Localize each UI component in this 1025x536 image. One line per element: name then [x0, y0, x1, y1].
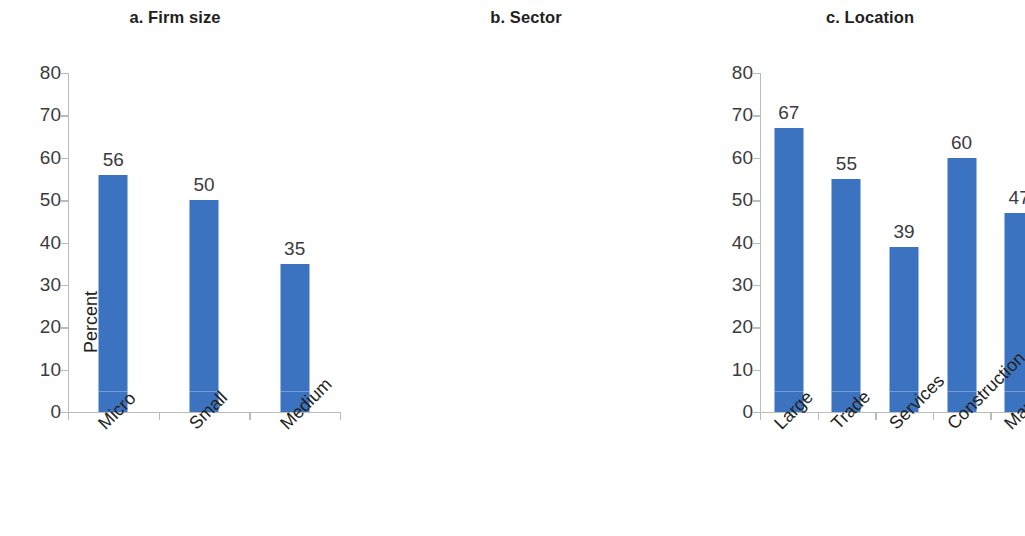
panel-b-title: b. Sector [366, 8, 686, 27]
y-axis-tick-label: 50 [40, 190, 61, 209]
y-axis-tick-label: 0 [50, 402, 61, 421]
x-axis-tick [68, 412, 69, 420]
y-axis-tick-label: 70 [40, 105, 61, 124]
x-axis-tick [159, 412, 160, 420]
y-axis-tick [61, 200, 68, 201]
y-axis-tick-label: 60 [40, 148, 61, 167]
y-axis-tick-label: 80 [40, 63, 61, 82]
bar-value-label: 50 [193, 175, 214, 194]
panel-sector: b. Sector Percent 01020304050607080 6755… [348, 0, 708, 536]
x-axis-tick [340, 412, 341, 420]
y-axis-tick [61, 158, 68, 159]
y-axis-tick [61, 115, 68, 116]
y-axis-tick [61, 370, 68, 371]
bar-slot: 35 [249, 73, 340, 412]
y-axis-tick [61, 285, 68, 286]
y-axis-tick [61, 73, 68, 74]
bar [189, 200, 218, 412]
panel-location: c. Location Percent 01020304050607080 53… [710, 0, 1025, 536]
panel-a-title: a. Firm size [10, 8, 340, 27]
y-axis-tick [61, 327, 68, 328]
y-axis-tick [61, 412, 68, 413]
bar-value-label: 56 [103, 150, 124, 169]
panel-firm-size: a. Firm size Percent 01020304050607080 5… [0, 0, 350, 536]
panel-c-title: c. Location [740, 8, 1000, 27]
bar-value-label: 35 [284, 239, 305, 258]
y-axis-tick-label: 40 [40, 233, 61, 252]
bar-slot: 50 [159, 73, 250, 412]
y-axis-tick [61, 243, 68, 244]
bar-slot: 56 [68, 73, 159, 412]
y-axis-tick-label: 20 [40, 317, 61, 336]
y-axis-tick-label: 30 [40, 275, 61, 294]
y-axis-tick-label: 10 [40, 360, 61, 379]
bar [99, 175, 128, 412]
x-axis-tick [249, 412, 250, 420]
figure-three-panel-bar-charts: a. Firm size Percent 01020304050607080 5… [0, 0, 1025, 536]
panel-a-plot-area: Percent 01020304050607080 565035 [68, 73, 340, 412]
